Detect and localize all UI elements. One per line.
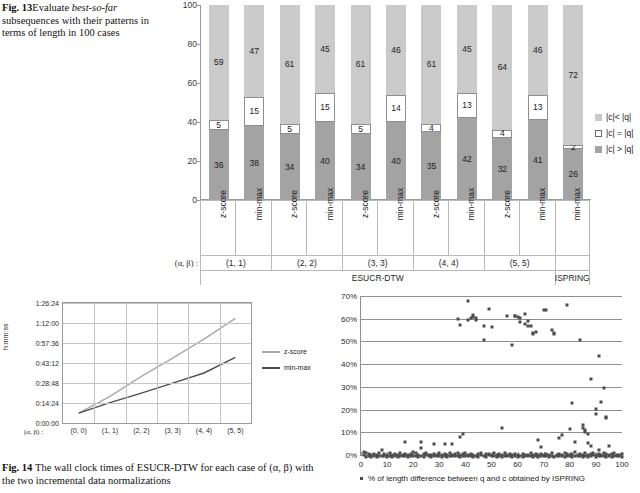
scatter-point (602, 387, 605, 390)
bar-segment-value: 4 (429, 124, 434, 133)
bar-segment[interactable]: 5 (209, 120, 229, 130)
scatter-gridline (361, 364, 622, 365)
bar-segment-value: 4 (500, 129, 505, 138)
scatter-x-tick-label: 20 (409, 460, 418, 469)
line-y-tick-label: 1:26:24 (36, 300, 59, 307)
bar-segment-value: 46 (391, 46, 400, 55)
bar-segment[interactable]: 13 (457, 93, 477, 118)
bar-legend-item[interactable]: |c| > |q| (595, 144, 640, 154)
line-y-tick-label: 0:57:36 (36, 340, 59, 347)
line-x-tick-label: (1, 1) (102, 427, 118, 434)
bar-group-cell: (5, 5) (484, 255, 555, 270)
bar-segment[interactable]: 61 (280, 5, 300, 124)
bar-column[interactable]: 34561 (351, 5, 371, 200)
line-legend-item[interactable]: min-max (262, 364, 311, 371)
bar-group-cell: (4, 4) (413, 255, 484, 270)
bar-segment-value: 41 (533, 156, 542, 165)
scatter-gridline (361, 296, 622, 297)
bar-segment[interactable]: 5 (280, 124, 300, 134)
bar-segment[interactable]: 46 (528, 5, 548, 95)
bar-segment[interactable]: 14 (386, 95, 406, 122)
scatter-y-tick-label: 70% (341, 292, 357, 301)
scatter-x-tick-label: 90 (591, 460, 600, 469)
bar-segment-value: 59 (214, 58, 223, 67)
bar-segment[interactable]: 46 (386, 5, 406, 95)
bar-segment-value: 46 (533, 46, 542, 55)
bar-category-cell: min-max (448, 200, 483, 255)
scatter-point (621, 455, 624, 458)
bar-y-tick-mark (197, 44, 201, 45)
bar-column[interactable]: 421345 (457, 5, 477, 200)
bar-segment[interactable]: 47 (244, 5, 264, 97)
scatter-point (597, 449, 600, 452)
bar-legend-item[interactable]: |c|< |q| (595, 112, 640, 122)
bar-category-label: z-score (360, 190, 370, 218)
bar-legend-item[interactable]: |c| = |q| (595, 128, 640, 138)
bar-segment[interactable]: 2 (563, 145, 583, 149)
scatter-point (443, 442, 446, 445)
bar-supergroup-cell: ISPRING (555, 270, 590, 285)
bar-segment[interactable]: 61 (351, 5, 371, 124)
bar-y-tick-mark (197, 83, 201, 84)
bar-column[interactable]: 32464 (492, 5, 512, 200)
bar-segment-value: 61 (427, 60, 436, 69)
scatter-point (568, 427, 571, 430)
bar-segment[interactable]: 64 (492, 5, 512, 130)
scatter-point (490, 326, 493, 329)
line-legend-item[interactable]: z-score (262, 348, 311, 355)
scatter-point (553, 332, 556, 335)
scatter-y-tick-label: 20% (341, 405, 357, 414)
bar-y-tick-label: 0 (167, 195, 197, 205)
bar-segment-value: 61 (285, 60, 294, 69)
bar-column[interactable]: 411346 (528, 5, 548, 200)
bar-column[interactable]: 381547 (244, 5, 264, 200)
bar-column[interactable]: 401446 (386, 5, 406, 200)
bar-column[interactable]: 26272 (563, 5, 583, 200)
scatter-point (467, 299, 470, 302)
scatter-y-tick-label: 10% (341, 428, 357, 437)
line-ab-prefix: (α, β) : (24, 428, 43, 436)
bar-segment[interactable]: 59 (209, 5, 229, 120)
bar-segment-value: 47 (249, 47, 258, 56)
bar-segment[interactable]: 15 (244, 97, 264, 126)
scatter-point (594, 412, 597, 415)
bar-category-label: min-max (254, 188, 264, 221)
line-gridline-vertical (94, 303, 95, 423)
line-y-tick-label: 0:00:00 (36, 420, 59, 427)
bar-segment[interactable]: 45 (457, 5, 477, 93)
scatter-point (597, 355, 600, 358)
scatter-gridline (361, 432, 622, 433)
scatter-point (574, 440, 577, 443)
bar-supergroup-labels: ESUCR-DTWISPRING (200, 270, 590, 285)
bar-segment[interactable]: 13 (528, 95, 548, 120)
bar-category-cell: z-score (484, 200, 519, 255)
bar-segment-value: 61 (356, 60, 365, 69)
bar-segment[interactable]: 72 (563, 5, 583, 145)
line-x-tick-label: (5, 5) (227, 427, 243, 434)
bar-segment-value: 5 (216, 121, 221, 130)
bar-segment[interactable]: 15 (315, 93, 335, 122)
bar-column[interactable]: 36559 (209, 5, 229, 200)
scatter-point (433, 443, 436, 446)
bar-category-cell: min-max (519, 200, 554, 255)
bar-segment-value: 34 (356, 163, 365, 172)
scatter-y-tick-label: 50% (341, 337, 357, 346)
bar-segment[interactable]: 45 (315, 5, 335, 93)
line-plot-area: 0:00:000:14:240:28:480:43:120:57:361:12:… (62, 302, 252, 424)
bar-segment[interactable]: 5 (351, 124, 371, 134)
scatter-point (534, 330, 537, 333)
bar-segment-value: 38 (249, 159, 258, 168)
line-chart: h:mm:ss 0:00:000:14:240:28:480:43:120:57… (0, 288, 320, 453)
bar-category-label: min-max (395, 188, 405, 221)
scatter-point (560, 433, 563, 436)
bar-group-cell: (1, 1) (200, 255, 271, 270)
scatter-y-tick-label: 60% (341, 314, 357, 323)
bar-segment[interactable]: 61 (421, 5, 441, 124)
bar-column[interactable]: 35461 (421, 5, 441, 200)
bar-category-cell: z-score (413, 200, 448, 255)
bar-column[interactable]: 401545 (315, 5, 335, 200)
bar-segment[interactable]: 4 (421, 124, 441, 132)
bar-segment[interactable]: 4 (492, 130, 512, 138)
scatter-point (529, 325, 532, 328)
bar-column[interactable]: 34561 (280, 5, 300, 200)
